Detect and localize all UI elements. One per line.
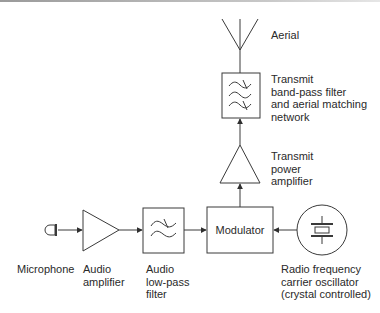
rf-oscillator-label: Radio frequency carrier oscillator (crys… <box>281 263 371 301</box>
modulator-label: Modulator <box>207 224 273 236</box>
microphone-icon <box>45 224 58 236</box>
antenna-icon <box>222 19 258 73</box>
audio-amplifier-label: Audio amplifier <box>83 263 125 288</box>
tx-bandpass-filter-label: Transmit band-pass filter and aerial mat… <box>271 73 367 123</box>
aerial-label: Aerial <box>271 29 299 42</box>
tx-power-amplifier-label: Transmit power amplifier <box>271 150 313 188</box>
lowpass-filter-block <box>143 208 184 253</box>
audio-amplifier-triangle-icon <box>83 210 119 251</box>
bandpass-filter-block <box>222 73 260 118</box>
microphone-label: Microphone <box>17 263 74 276</box>
amplifier-triangle-icon <box>220 145 260 183</box>
crystal-oscillator-icon <box>297 205 347 255</box>
audio-lowpass-filter-label: Audio low-pass filter <box>146 263 189 301</box>
